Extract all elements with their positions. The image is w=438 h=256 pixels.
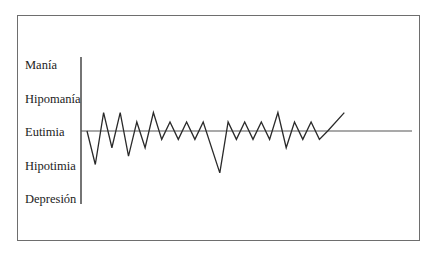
mood-chart (0, 0, 438, 256)
series-line-0 (87, 113, 344, 173)
